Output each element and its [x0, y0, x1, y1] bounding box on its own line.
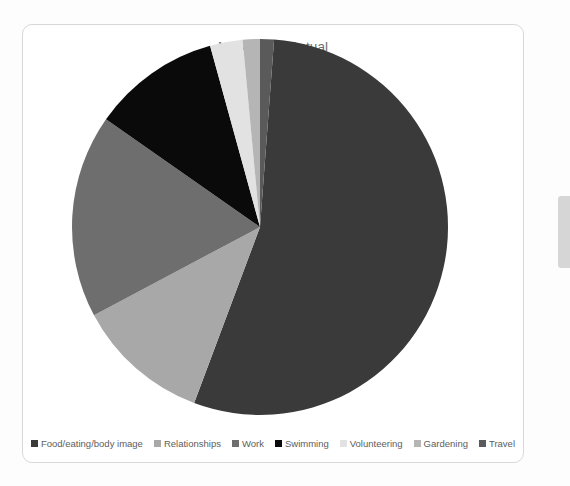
chart-card: My Values--Actual Food/eating/body image… [22, 24, 524, 463]
legend-item[interactable]: Volunteering [340, 439, 403, 449]
legend-item[interactable]: Travel [479, 439, 515, 449]
legend-swatch-icon [31, 440, 38, 447]
screenshot-root: My Values--Actual Food/eating/body image… [0, 0, 570, 486]
legend-swatch-icon [340, 440, 347, 447]
legend-item[interactable]: Work [232, 439, 264, 449]
legend-swatch-icon [479, 440, 486, 447]
legend-swatch-icon [154, 440, 161, 447]
legend-item-label: Gardening [424, 439, 468, 449]
legend-swatch-icon [414, 440, 421, 447]
legend-item-label: Volunteering [350, 439, 403, 449]
chart-legend: Food/eating/body imageRelationshipsWorkS… [23, 439, 523, 449]
pie-chart-svg [70, 37, 450, 417]
right-edge-strip[interactable] [558, 196, 570, 268]
legend-item-label: Relationships [164, 439, 221, 449]
pie-chart-area [23, 25, 525, 464]
legend-item[interactable]: Gardening [414, 439, 468, 449]
legend-item-label: Travel [489, 439, 515, 449]
legend-item-label: Swimming [285, 439, 329, 449]
legend-item[interactable]: Food/eating/body image [31, 439, 143, 449]
legend-item[interactable]: Relationships [154, 439, 221, 449]
legend-swatch-icon [275, 440, 282, 447]
pie-slice-group [72, 39, 448, 415]
legend-swatch-icon [232, 440, 239, 447]
legend-item[interactable]: Swimming [275, 439, 329, 449]
legend-item-label: Food/eating/body image [41, 439, 143, 449]
legend-item-label: Work [242, 439, 264, 449]
